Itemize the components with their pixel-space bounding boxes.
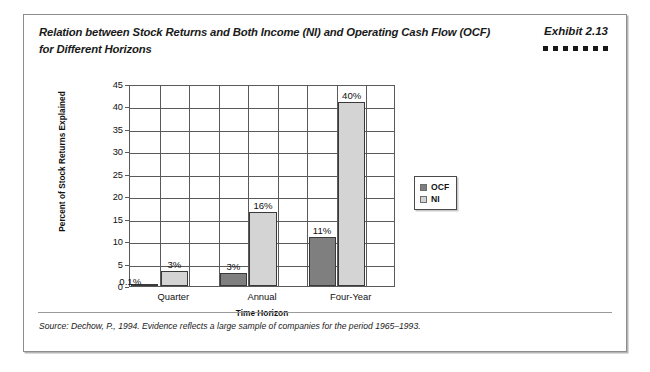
bar-value-label: 3%: [153, 259, 197, 270]
y-axis-tick-label: 25: [101, 170, 123, 180]
legend-item-ocf: OCF: [420, 181, 449, 193]
chart-legend: OCFNI: [414, 176, 457, 210]
y-axis-tick-label: 35: [101, 125, 123, 135]
x-axis-title: Time Horizon: [129, 308, 395, 318]
category-separator: [189, 86, 190, 286]
decorative-square-icon: [553, 46, 558, 51]
exhibit-decorative-dots: [543, 46, 608, 51]
legend-label: NI: [431, 194, 440, 204]
bar-ni-annual: [249, 212, 276, 286]
x-axis-tick-label: Annual: [218, 291, 307, 302]
category-separator: [160, 86, 161, 286]
chart-region: Percent of Stock Returns Explained 0.1%3…: [24, 65, 626, 305]
legend-item-ni: NI: [420, 193, 449, 205]
bar-ocf-four-year: [309, 237, 336, 286]
decorative-square-icon: [583, 46, 588, 51]
plot-area: 0.1%3%3%16%11%40%: [129, 85, 395, 287]
y-axis-tick-label: 15: [101, 215, 123, 225]
exhibit-header: Relation between Stock Returns and Both …: [24, 15, 626, 71]
exhibit-frame: Relation between Stock Returns and Both …: [23, 14, 627, 352]
y-axis-tick-label: 5: [101, 260, 123, 270]
y-axis-tick-label: 0: [101, 282, 123, 292]
decorative-square-icon: [593, 46, 598, 51]
x-axis-tick-label: Four-Year: [306, 291, 395, 302]
decorative-square-icon: [603, 46, 608, 51]
y-axis-title: Percent of Stock Returns Explained: [58, 62, 67, 262]
y-axis-tick-label: 45: [101, 80, 123, 90]
y-axis-tick-mark: [125, 287, 129, 288]
category-separator: [366, 86, 367, 286]
decorative-square-icon: [543, 46, 548, 51]
bar-value-label: 40%: [330, 90, 374, 101]
source-note: Source: Dechow, P., 1994. Evidence refle…: [39, 321, 421, 331]
y-axis-tick-label: 20: [101, 192, 123, 202]
legend-label: OCF: [431, 182, 449, 192]
bar-ocf-annual: [220, 273, 247, 286]
decorative-square-icon: [563, 46, 568, 51]
category-separator: [219, 86, 220, 286]
exhibit-title: Relation between Stock Returns and Both …: [39, 24, 494, 58]
y-axis-tick-label: 40: [101, 102, 123, 112]
bar-value-label: 16%: [241, 200, 285, 211]
y-axis-tick-label: 10: [101, 237, 123, 247]
legend-swatch-icon: [420, 184, 427, 191]
exhibit-number: Exhibit 2.13: [544, 25, 608, 37]
y-axis-ticks: [101, 85, 125, 287]
bar-ni-four-year: [338, 102, 365, 286]
decorative-square-icon: [573, 46, 578, 51]
bar-ni-quarter: [161, 271, 188, 286]
y-axis-tick-label: 30: [101, 147, 123, 157]
source-divider: [38, 312, 612, 313]
legend-swatch-icon: [420, 196, 427, 203]
x-axis-tick-label: Quarter: [129, 291, 218, 302]
category-separator: [278, 86, 279, 286]
